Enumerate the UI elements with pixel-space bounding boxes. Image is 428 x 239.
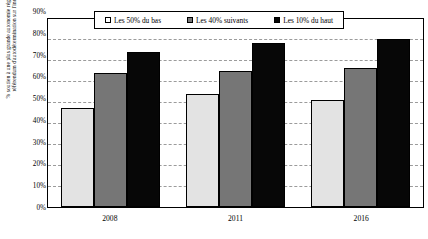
y-axis-tick-label: 40% (33, 117, 46, 125)
legend-swatch-icon (187, 17, 193, 23)
legend-label: Les 40% suivants (196, 16, 248, 25)
y-axis-tick-label: 10% (33, 182, 46, 190)
legend-swatch-icon (274, 17, 280, 23)
bar-chart: % soutien à une plus grande autonomie ré… (0, 0, 428, 239)
y-axis-tick-label: 20% (33, 160, 46, 168)
bar (311, 100, 344, 207)
bar-group (48, 18, 173, 207)
bar (127, 52, 160, 207)
legend-item[interactable]: Les 50% du bas (105, 16, 161, 25)
x-axis-tick-label: 2011 (173, 214, 299, 223)
y-axis-title-line-2: référendum d'autodétermination sur l'ind… (12, 0, 18, 92)
y-axis-tick-label: 30% (33, 139, 46, 147)
plot-area (47, 18, 424, 208)
legend-swatch-icon (105, 17, 111, 23)
bar-group (173, 18, 298, 207)
legend-item[interactable]: Les 40% suivants (187, 16, 248, 25)
bar (186, 94, 219, 207)
y-axis-tick-label: 60% (33, 73, 46, 81)
y-axis-tick-label: 80% (33, 30, 46, 38)
legend-label: Les 50% du bas (114, 16, 161, 25)
bar-group (298, 18, 423, 207)
bar (219, 71, 252, 208)
bar (61, 108, 94, 207)
bar (377, 39, 410, 207)
y-axis-tick-label: 70% (33, 52, 46, 60)
bar (344, 68, 377, 207)
x-axis-tick-label: 2008 (47, 214, 173, 223)
legend-item[interactable]: Les 10% du haut (274, 16, 333, 25)
y-axis-tick-label: 90% (33, 8, 46, 16)
x-axis-tick-label: 2016 (298, 214, 424, 223)
legend-label: Les 10% du haut (283, 16, 333, 25)
y-axis-tick-label: 50% (33, 95, 46, 103)
bar (252, 43, 285, 207)
legend: Les 50% du basLes 40% suivantsLes 10% du… (94, 11, 344, 29)
bar-groups (48, 18, 423, 207)
x-axis-tick-labels: 200820112016 (47, 214, 424, 223)
y-axis-tick-label: 0% (36, 204, 46, 212)
y-axis-tick-labels: 0%10%20%30%40%50%60%70%80%90% (20, 12, 46, 208)
bar (94, 73, 127, 207)
